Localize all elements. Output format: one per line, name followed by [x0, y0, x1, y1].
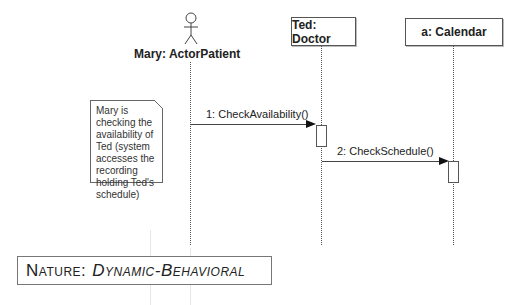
note-line: accesses the: [96, 153, 157, 165]
note-line: checking the: [96, 117, 157, 129]
arrow-head-icon: [306, 120, 316, 128]
participant-label-ted: Ted: Doctor: [292, 18, 355, 46]
nature-label-box: Nature: Dynamic-Behavioral: [17, 256, 272, 285]
note-fold-corner: [154, 100, 163, 109]
message-arrow-2: [322, 161, 442, 162]
note-line: schedule): [96, 189, 157, 201]
note-line: Ted (system: [96, 141, 157, 153]
nature-value: Dynamic-Behavioral: [92, 261, 245, 281]
actor-stick-figure-icon: [180, 12, 202, 46]
activation-calendar: [448, 161, 459, 183]
note-line: availability of: [96, 129, 157, 141]
actor-label-mary: Mary: ActorPatient: [134, 47, 240, 61]
participant-label-calendar: a: Calendar: [421, 25, 486, 39]
message-label-1: 1: CheckAvailability(): [206, 108, 309, 120]
note-line: Mary is: [96, 105, 157, 117]
lifeline-mary: [190, 62, 191, 245]
note-line: holding Ted's: [96, 177, 157, 189]
message-label-2: 2: CheckSchedule(): [337, 145, 434, 157]
note-line: recording: [96, 165, 157, 177]
lifeline-calendar: [453, 45, 454, 245]
participant-ted-doctor: Ted: Doctor: [291, 17, 356, 46]
participant-calendar: a: Calendar: [405, 18, 503, 46]
note-comment: Mary is checking the availability of Ted…: [90, 100, 163, 183]
nature-key: Nature:: [26, 261, 86, 281]
message-arrow-1: [190, 124, 310, 125]
activation-ted: [316, 125, 327, 147]
